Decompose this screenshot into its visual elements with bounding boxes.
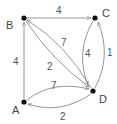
weight-b-c: 4 [56,5,62,16]
weight-a-d: 7 [51,80,57,91]
weight-c-d: 4 [85,48,91,59]
node-a [21,99,26,104]
weight-a-b: 4 [13,56,19,67]
node-b [21,15,26,20]
weight-b-d: 2 [47,61,53,72]
node-label-c: C [102,7,110,19]
weight-d-b: 7 [61,37,67,48]
weight-d-c: 1 [107,47,113,58]
node-d [90,88,95,93]
node-label-a: A [12,104,20,116]
weight-d-a: 2 [60,111,66,122]
edge-a-to-d [27,86,89,100]
edge-d-to-b [27,20,91,88]
edge-b-to-d [26,21,89,87]
edge-d-to-c [95,22,104,88]
node-label-b: B [6,19,13,31]
edge-d-to-a [28,94,91,108]
node-label-d: D [99,93,107,105]
directed-weighted-graph: A B C D 4 4 7 2 7 2 4 1 [0,0,117,124]
node-c [92,15,97,20]
